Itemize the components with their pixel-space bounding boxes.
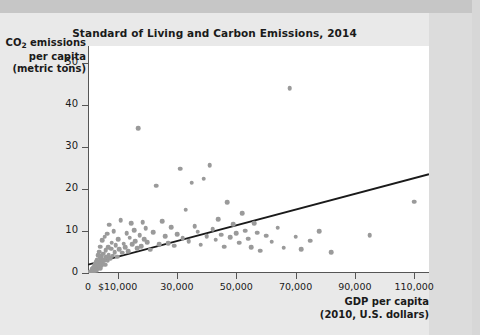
- x-axis-title: GDP per capita (2010, U.S. dollars): [209, 296, 429, 321]
- trend-line: [88, 46, 429, 273]
- scatter-point: [201, 177, 206, 182]
- scatter-point: [228, 235, 233, 240]
- scatter-point: [317, 229, 322, 234]
- scatter-point: [329, 250, 334, 255]
- scatter-point: [264, 233, 269, 238]
- x-tick-90000: [355, 273, 356, 279]
- y-tick-label-10: 10: [38, 224, 78, 235]
- y-axis-title: CO2 emissions per capita (metric tons): [0, 37, 86, 76]
- y-tick-label-20: 20: [38, 182, 78, 193]
- scatter-point: [178, 166, 183, 171]
- scatter-point: [243, 228, 248, 233]
- scatter-point: [163, 234, 168, 239]
- scatter-point: [98, 244, 103, 249]
- scatter-point: [207, 163, 212, 168]
- scatter-point: [126, 249, 131, 254]
- scatter-point: [240, 211, 245, 216]
- scatter-point: [204, 234, 209, 239]
- scatter-point: [189, 180, 194, 185]
- scatter-point: [287, 86, 292, 91]
- x-tick-110000: [414, 273, 415, 279]
- scatter-point: [169, 225, 174, 230]
- x-axis-title-line-1: GDP per capita: [209, 296, 429, 309]
- scatter-point: [195, 230, 200, 235]
- x-tick-label-10000: $10,000: [98, 281, 137, 292]
- scatter-point: [192, 224, 197, 229]
- scatter-point: [111, 229, 116, 234]
- scatter-point: [216, 217, 221, 222]
- scatter-point: [144, 226, 149, 231]
- scatter-point: [237, 240, 242, 245]
- scatter-point: [210, 227, 215, 232]
- x-tick-label-70000: 70,000: [279, 281, 312, 292]
- scatter-point: [234, 231, 239, 236]
- x-tick-label-110000: 110,000: [395, 281, 434, 292]
- y-tick-label-30: 30: [38, 140, 78, 151]
- scatter-point: [281, 245, 286, 250]
- scatter-point: [367, 233, 372, 238]
- y-tick-label-40: 40: [38, 98, 78, 109]
- y-axis-title-line-1: CO2 emissions: [0, 37, 86, 51]
- y-tick-0: [82, 273, 88, 274]
- scatter-point: [222, 244, 227, 249]
- scatter-point: [145, 240, 150, 245]
- x-tick-50000: [236, 273, 237, 279]
- scatter-point: [187, 239, 192, 244]
- scatter-point: [172, 243, 177, 248]
- scatter-point: [308, 238, 313, 243]
- scatter-point: [148, 248, 153, 253]
- scatter-point: [225, 200, 230, 205]
- scatter-point: [213, 237, 218, 242]
- scatter-point: [132, 228, 137, 233]
- scatter-point: [120, 251, 125, 256]
- scatter-point: [115, 254, 120, 259]
- y-axis-title-line-2: per capita: [0, 51, 86, 64]
- scatter-point: [275, 225, 280, 230]
- scatter-point: [231, 222, 236, 227]
- scatter-point: [270, 240, 275, 245]
- scatter-point: [133, 239, 138, 244]
- top-gray-band: [0, 0, 480, 13]
- scatter-point: [181, 236, 186, 241]
- x-tick-10000: [118, 273, 119, 279]
- scatter-point: [141, 220, 146, 225]
- scatter-point: [293, 235, 298, 240]
- scatter-point: [258, 248, 263, 253]
- x-tick-label-50000: 50,000: [220, 281, 253, 292]
- scatter-data-layer: [88, 46, 429, 273]
- scatter-point: [249, 245, 254, 250]
- scatter-point: [175, 232, 180, 237]
- y-axis-title-line-3: (metric tons): [0, 63, 86, 76]
- scatter-point: [129, 221, 134, 226]
- scatter-point: [166, 241, 171, 246]
- scatter-point: [151, 230, 156, 235]
- chart-figure: Standard of Living and Carbon Emissions,…: [0, 13, 472, 335]
- x-tick-30000: [177, 273, 178, 279]
- scatter-point: [157, 242, 162, 247]
- scatter-point: [252, 221, 257, 226]
- x-tick-label-0: 0: [85, 281, 91, 292]
- scatter-point: [107, 222, 112, 227]
- scatter-point: [139, 244, 144, 249]
- scatter-point: [127, 235, 132, 240]
- scatter-point: [154, 183, 159, 188]
- scatter-point: [219, 232, 224, 237]
- scatter-point: [255, 230, 260, 235]
- scatter-point: [105, 232, 110, 237]
- scatter-point: [118, 218, 123, 223]
- scatter-point: [412, 199, 417, 204]
- x-tick-70000: [296, 273, 297, 279]
- page-background: Standard of Living and Carbon Emissions,…: [0, 0, 480, 335]
- scatter-point: [184, 207, 189, 212]
- scatter-point: [136, 126, 141, 131]
- x-tick-label-90000: 90,000: [338, 281, 371, 292]
- scatter-point: [116, 237, 121, 242]
- x-axis-title-line-2: (2010, U.S. dollars): [209, 309, 429, 322]
- y-tick-label-0: 0: [38, 266, 78, 277]
- scatter-point: [160, 219, 165, 224]
- scatter-point: [299, 247, 304, 252]
- scatter-point: [198, 243, 203, 248]
- scatter-point: [246, 236, 251, 241]
- x-tick-label-30000: 30,000: [160, 281, 193, 292]
- scatter-point: [138, 233, 143, 238]
